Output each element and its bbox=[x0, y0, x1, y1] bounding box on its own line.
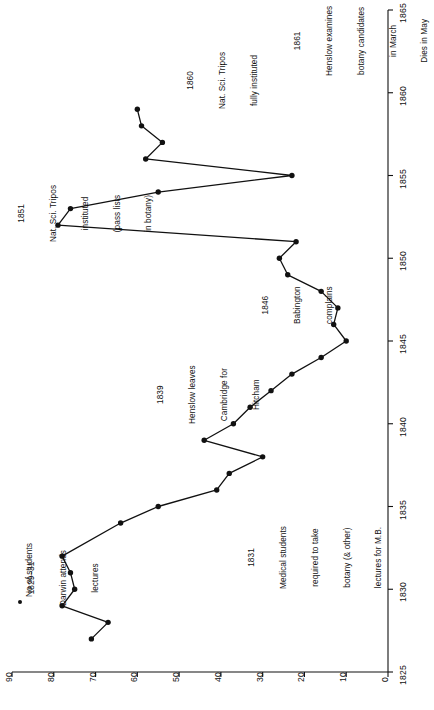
value-axis-tick-label: 20 bbox=[296, 672, 306, 682]
annotation-tripos-instituted: 1851 Nat. Sci. Tripos instituted (pass l… bbox=[0, 185, 176, 242]
year-axis-tick-label: 1860 bbox=[398, 86, 408, 106]
annotation-line: in March bbox=[388, 6, 399, 76]
data-point-marker bbox=[260, 454, 265, 459]
year-axis-tick-label: 1840 bbox=[398, 417, 408, 437]
annotation-line: 1829–31 bbox=[28, 550, 39, 606]
annotation-medical-students: 1831 Medical students required to take b… bbox=[226, 526, 406, 589]
annotation-line: Darwin attends bbox=[59, 550, 70, 606]
annotation-line: botany candidates bbox=[356, 6, 367, 76]
year-axis-tick-label: 1855 bbox=[398, 169, 408, 189]
annotation-line: Dies in May bbox=[420, 6, 431, 76]
data-point-marker bbox=[118, 520, 123, 525]
annotation-henslow-dies: 1861 Henslow examines botany candidates … bbox=[272, 6, 434, 76]
annotation-line: Medical students bbox=[279, 526, 290, 589]
data-point-marker bbox=[160, 140, 165, 145]
annotation-line: Henslow examines bbox=[325, 6, 336, 76]
value-axis-tick-label: 10 bbox=[338, 672, 348, 682]
year-axis-tick-label: 1845 bbox=[398, 334, 408, 354]
annotation-line: Hitcham bbox=[251, 365, 262, 424]
value-axis-tick-label: 50 bbox=[171, 672, 181, 682]
data-point-marker bbox=[318, 355, 323, 360]
annotation-line: lectures bbox=[91, 550, 102, 606]
annotation-line: complains bbox=[325, 287, 336, 325]
value-axis-tick-label: 0 bbox=[380, 677, 390, 682]
value-axis-tick-label: 30 bbox=[255, 672, 265, 682]
data-point-marker bbox=[289, 371, 294, 376]
data-point-marker bbox=[289, 173, 294, 178]
annotation-henslow-leaves: 1839 Henslow leaves Cambridge for Hitcha… bbox=[135, 365, 283, 424]
annotation-line: Nat. Sci. Tripos bbox=[49, 185, 60, 242]
value-axis-tick-label: 80 bbox=[46, 672, 56, 682]
annotation-tripos-fully-instituted: 1860 Nat. Sci. Tripos fully instituted bbox=[165, 52, 282, 109]
value-axis-tick-label: 60 bbox=[129, 672, 139, 682]
year-axis-tick-label: 1835 bbox=[398, 500, 408, 520]
annotation-line: 1831 bbox=[247, 526, 258, 589]
data-point-marker bbox=[89, 636, 94, 641]
data-point-marker bbox=[105, 620, 110, 625]
annotation-babington-complains: 1846 Babington complains bbox=[240, 287, 357, 325]
data-point-marker bbox=[277, 256, 282, 261]
year-axis-tick-label: 1825 bbox=[398, 665, 408, 685]
value-axis-tick-label: 70 bbox=[88, 672, 98, 682]
annotation-line: 1839 bbox=[156, 365, 167, 424]
annotation-line: Henslow leaves bbox=[188, 365, 199, 424]
annotation-line: (pass lists bbox=[112, 185, 123, 242]
data-point-marker bbox=[156, 504, 161, 509]
data-point-marker bbox=[214, 487, 219, 492]
data-point-marker bbox=[227, 471, 232, 476]
data-point-marker bbox=[143, 156, 148, 161]
annotation-line: Nat. Sci. Tripos bbox=[218, 52, 229, 109]
annotation-line: botany (& other) bbox=[342, 526, 353, 589]
data-point-marker bbox=[293, 239, 298, 244]
data-point-marker bbox=[285, 272, 290, 277]
annotation-line: fully instituted bbox=[250, 52, 261, 109]
annotation-line: required to take bbox=[310, 526, 321, 589]
value-axis-tick-label: 90 bbox=[4, 672, 14, 682]
data-point-marker bbox=[201, 438, 206, 443]
annotation-line: instituted bbox=[81, 185, 92, 242]
annotation-line: 1846 bbox=[262, 287, 273, 325]
annotation-line: lectures for M.B. bbox=[374, 526, 385, 589]
value-axis-tick-label: 40 bbox=[213, 672, 223, 682]
annotation-line: in botany) bbox=[144, 185, 155, 242]
annotation-line: Babington bbox=[293, 287, 304, 325]
annotation-line: Cambridge for bbox=[220, 365, 231, 424]
annotation-line: 1860 bbox=[186, 52, 197, 109]
annotation-darwin-attends: 1829–31 Darwin attends lectures bbox=[6, 550, 123, 606]
data-point-marker bbox=[344, 338, 349, 343]
data-point-marker bbox=[135, 107, 140, 112]
data-point-marker bbox=[139, 123, 144, 128]
annotation-line: 1861 bbox=[293, 6, 304, 76]
year-axis-tick-label: 1850 bbox=[398, 251, 408, 271]
annotation-line: 1851 bbox=[17, 185, 28, 242]
